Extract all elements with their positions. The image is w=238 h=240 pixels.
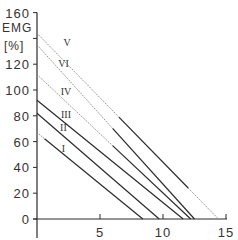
series-label-III: III — [61, 109, 71, 120]
series-line-I-dotted — [37, 133, 45, 139]
emg-chart: 02040608010012016051015EMG[%] IIIIIIIVVI… — [0, 0, 238, 240]
series-line-I — [45, 139, 143, 219]
y-tick-label: 160 — [5, 6, 30, 21]
x-tick-label: 5 — [96, 225, 104, 240]
y-tick-label: 20 — [14, 186, 30, 201]
series-line-V-dotted-end — [188, 188, 218, 219]
series-label-II: II — [60, 122, 67, 133]
series-line-V — [119, 117, 188, 188]
y-tick-label: 120 — [5, 57, 30, 72]
y-tick-label: 40 — [14, 160, 30, 175]
series-labels: IIIIIIIVVIV — [58, 37, 72, 154]
series-label-I: I — [62, 143, 65, 154]
series-line-VI-dotted — [37, 45, 113, 129]
y-tick-label: 60 — [14, 135, 30, 150]
y-tick-label: 0 — [22, 212, 30, 227]
series-line-IV — [113, 146, 191, 219]
series-line-V-dotted — [37, 33, 119, 117]
x-tick-label: 10 — [155, 225, 171, 240]
series-label-V: V — [64, 37, 72, 48]
y-axis-unit: [%] — [4, 39, 24, 53]
y-tick-label: 80 — [14, 109, 30, 124]
axes: 02040608010012016051015EMG[%] — [2, 6, 234, 240]
series-line-II — [37, 113, 159, 219]
series-line-VI — [113, 128, 195, 219]
series-label-IV: IV — [61, 86, 72, 97]
y-axis-title: EMG — [2, 21, 32, 35]
x-tick-label: 15 — [218, 225, 234, 240]
series-label-VI: VI — [58, 58, 69, 69]
y-tick-label: 100 — [5, 83, 30, 98]
